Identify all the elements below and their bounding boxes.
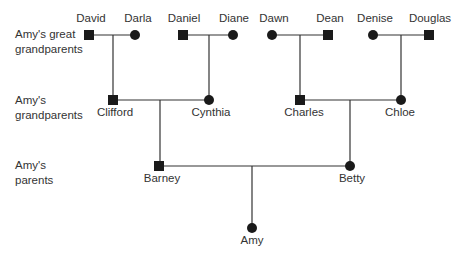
name-chloe: Chloe (385, 106, 415, 118)
chloe-female-circle-icon (396, 95, 406, 105)
diane-female-circle-icon (228, 30, 238, 40)
generation-label-parents: Amy's parents (15, 158, 53, 188)
person-symbols (84, 30, 434, 233)
name-david: David (76, 12, 105, 24)
generation-label-grandparents: Amy's grandparents (15, 93, 83, 123)
name-denise: Denise (357, 12, 393, 24)
daniel-male-square-icon (178, 30, 188, 40)
douglas-male-square-icon (424, 30, 434, 40)
name-dawn: Dawn (259, 12, 288, 24)
name-dean: Dean (316, 12, 344, 24)
dean-male-square-icon (323, 30, 333, 40)
darla-female-circle-icon (130, 30, 140, 40)
name-barney: Barney (144, 172, 180, 184)
name-daniel: Daniel (168, 12, 201, 24)
barney-male-square-icon (154, 161, 164, 171)
name-charles: Charles (284, 106, 324, 118)
charles-male-square-icon (295, 95, 305, 105)
name-betty: Betty (339, 172, 365, 184)
label-line: Amy's (15, 158, 53, 173)
label-line: grandparents (15, 42, 83, 57)
amy-female-circle-icon (247, 223, 257, 233)
name-darla: Darla (124, 12, 151, 24)
name-cynthia: Cynthia (192, 106, 231, 118)
name-clifford: Clifford (97, 106, 133, 118)
david-male-square-icon (84, 30, 94, 40)
connector-lines (89, 35, 429, 228)
betty-female-circle-icon (345, 161, 355, 171)
label-line: Amy's (15, 93, 83, 108)
generation-label-great-grandparents: Amy's great grandparents (15, 27, 83, 57)
name-amy: Amy (241, 234, 264, 246)
label-line: grandparents (15, 108, 83, 123)
name-douglas: Douglas (409, 12, 451, 24)
denise-female-circle-icon (368, 30, 378, 40)
clifford-male-square-icon (108, 95, 118, 105)
dawn-female-circle-icon (267, 30, 277, 40)
label-line: Amy's great (15, 27, 83, 42)
cynthia-female-circle-icon (204, 95, 214, 105)
label-line: parents (15, 173, 53, 188)
name-diane: Diane (219, 12, 249, 24)
